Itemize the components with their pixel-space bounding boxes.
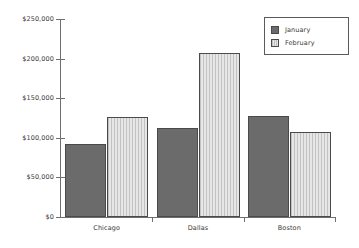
bar-chicago-january[interactable] — [65, 144, 106, 217]
x-axis-separator — [244, 217, 245, 222]
y-tick-label: $100,000 — [22, 134, 54, 142]
bar-boston-february[interactable] — [290, 132, 331, 217]
bar-chart: $0$50,000$100,000$150,000$200,000$250,00… — [0, 0, 359, 248]
legend-label-february: February — [285, 39, 315, 47]
y-tick-label: $250,000 — [22, 15, 54, 23]
y-tick-label: $50,000 — [26, 173, 54, 181]
y-tick-label: $150,000 — [22, 94, 54, 102]
x-label-chicago: Chicago — [93, 224, 120, 232]
bar-dallas-january[interactable] — [157, 128, 198, 217]
bar-dallas-february[interactable] — [199, 53, 240, 217]
legend-item-january[interactable]: January — [271, 23, 342, 36]
y-tick-label: $200,000 — [22, 55, 54, 63]
bar-chicago-february[interactable] — [107, 117, 148, 217]
x-label-boston: Boston — [278, 224, 301, 232]
legend-swatch-february-icon — [271, 39, 279, 47]
legend-label-january: January — [285, 26, 310, 34]
x-axis-separator — [335, 217, 336, 222]
y-tick-label: $0 — [46, 213, 54, 221]
bar-boston-january[interactable] — [248, 116, 289, 217]
legend-swatch-january-icon — [271, 26, 279, 34]
x-axis-line — [60, 217, 336, 218]
chart-legend: January February — [264, 17, 349, 55]
legend-item-february[interactable]: February — [271, 36, 342, 49]
x-label-dallas: Dallas — [188, 224, 209, 232]
x-axis-separator — [152, 217, 153, 222]
